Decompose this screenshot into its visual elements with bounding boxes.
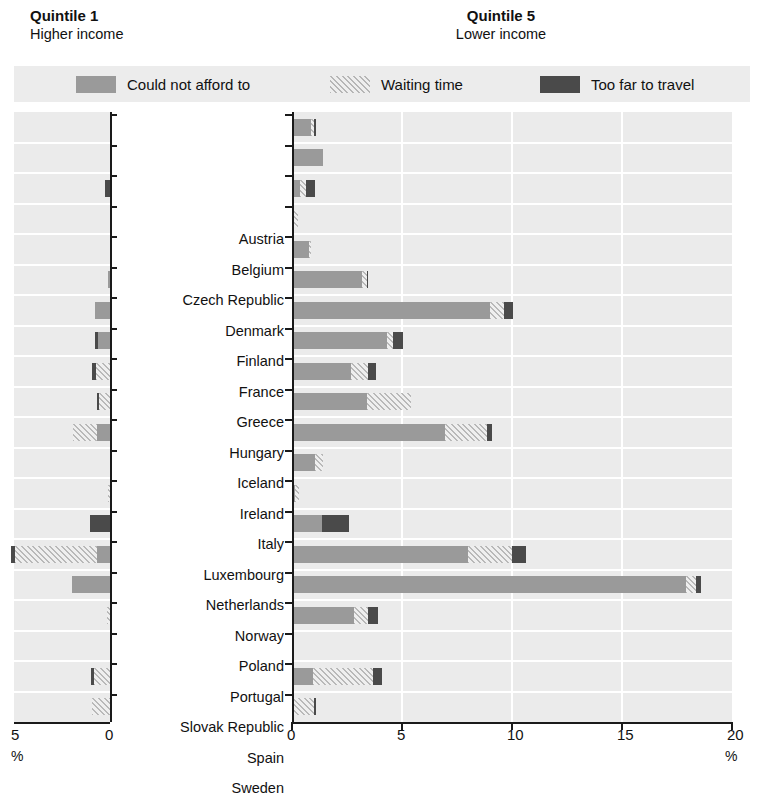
bar-segment-travel-norway (322, 515, 350, 532)
bar-segment-wait-italy (445, 424, 487, 441)
bar-segment-travel-poland (11, 546, 15, 563)
row-separator (14, 599, 110, 601)
panel-headers: Quintile 1 Higher income Quintile 5 Lowe… (0, 0, 760, 62)
row-separator (14, 416, 110, 418)
bar-segment-wait-iceland (96, 363, 110, 380)
bar-segment-afford-ireland (292, 393, 367, 410)
row-separator (14, 569, 110, 571)
bar-segment-afford-italy (97, 424, 110, 441)
header-quintile-5: Quintile 5 Lower income (386, 6, 616, 44)
bar-segment-afford-belgium (292, 149, 323, 166)
bar-segment-wait-czech-republic (300, 180, 307, 197)
country-label-portugal: Portugal (230, 689, 284, 705)
bar-segment-travel-norway (90, 515, 110, 532)
bar-segment-afford-iceland (292, 363, 351, 380)
row-separator (14, 538, 110, 540)
bar-segment-wait-greece (490, 302, 504, 319)
x-tick-label-right-0: 0 (287, 726, 295, 743)
legend-swatch-too-far-to-travel (540, 76, 580, 93)
row-separator (14, 325, 110, 327)
row-separator (14, 508, 110, 510)
bar-segment-afford-hungary (292, 332, 387, 349)
row-separator (14, 233, 110, 235)
country-label-ireland: Ireland (240, 506, 284, 522)
bar-segment-afford-france (292, 271, 362, 288)
row-separator (14, 386, 110, 388)
row-separator (14, 142, 110, 144)
x-tick-label-right-5: 5 (397, 726, 405, 743)
country-label-slovak-republic: Slovak Republic (180, 719, 284, 735)
header-quintile-1: Quintile 1 Higher income (30, 6, 124, 44)
bar-segment-travel-france (367, 271, 369, 288)
x-axis-unit-left: % (11, 748, 23, 765)
bar-segment-travel-greece (504, 302, 513, 319)
bar-segment-wait-poland (468, 546, 512, 563)
bar-segment-wait-luxembourg (315, 454, 323, 471)
x-axis-right (292, 722, 732, 724)
bar-segment-wait-slovak-republic (354, 607, 368, 624)
legend-label-could-not-afford: Could not afford to (127, 76, 250, 93)
country-label-iceland: Iceland (237, 475, 284, 491)
bar-segment-afford-hungary (98, 332, 110, 349)
bar-segment-wait-iceland (351, 363, 368, 380)
quintile-1-subtitle: Higher income (30, 25, 124, 44)
row-separator (14, 264, 110, 266)
country-label-finland: Finland (236, 353, 284, 369)
bar-segment-travel-hungary (95, 332, 99, 349)
gridline-10 (511, 112, 513, 722)
bar-segment-travel-austria (314, 119, 316, 136)
country-label-sweden: Sweden (232, 780, 284, 796)
country-label-luxembourg: Luxembourg (203, 567, 284, 583)
country-labels: AustriaBelgiumCzech RepublicDenmarkFinla… (110, 112, 292, 722)
country-label-france: France (239, 384, 284, 400)
zero-axis-right (292, 112, 294, 722)
row-separator (14, 294, 110, 296)
bar-segment-travel-slovak-republic (368, 607, 378, 624)
legend-label-waiting-time: Waiting time (381, 76, 463, 93)
legend-swatch-could-not-afford (76, 76, 116, 93)
row-separator (14, 691, 110, 693)
bar-segment-afford-portugal (72, 576, 110, 593)
bar-segment-travel-poland (512, 546, 526, 563)
bar-segment-travel-hungary (393, 332, 403, 349)
bar-segment-wait-poland (15, 546, 97, 563)
legend-swatch-waiting-time (330, 76, 370, 93)
legend-item-too-far-to-travel: Too far to travel (540, 75, 694, 93)
quintile-5-subtitle: Lower income (386, 25, 616, 44)
x-tick-label-left-5: 5 (11, 726, 19, 743)
bar-segment-wait-italy (73, 424, 97, 441)
bar-segment-afford-austria (292, 119, 311, 136)
country-label-greece: Greece (236, 414, 284, 430)
row-separator (14, 172, 110, 174)
country-label-hungary: Hungary (229, 445, 284, 461)
row-separator (14, 355, 110, 357)
bar-segment-wait-united-kingdom (292, 698, 314, 715)
bar-segment-travel-sweden (91, 668, 94, 685)
bar-segment-wait-ireland (367, 393, 411, 410)
row-separator (14, 660, 110, 662)
x-tick-label-right-20: 20 (727, 726, 744, 743)
bar-segment-wait-sweden (94, 668, 110, 685)
legend-item-waiting-time: Waiting time (330, 75, 463, 93)
panel-quintile-5 (292, 112, 732, 722)
country-label-norway: Norway (235, 628, 284, 644)
bar-segment-afford-luxembourg (292, 454, 315, 471)
row-separator (14, 477, 110, 479)
bar-segment-afford-italy (292, 424, 445, 441)
bar-segment-travel-czech-republic (306, 180, 315, 197)
country-label-italy: Italy (257, 536, 284, 552)
x-axis-left (14, 722, 110, 724)
bar-segment-afford-greece (95, 302, 110, 319)
country-label-poland: Poland (239, 658, 284, 674)
panel-quintile-1 (14, 112, 110, 722)
quintile-5-title: Quintile 5 (386, 6, 616, 25)
bar-segment-travel-italy (487, 424, 493, 441)
bar-segment-wait-portugal (686, 576, 696, 593)
row-separator (14, 447, 110, 449)
bar-segment-travel-sweden (373, 668, 382, 685)
row-separator (14, 203, 110, 205)
country-label-denmark: Denmark (225, 323, 284, 339)
bar-segment-afford-poland (292, 546, 468, 563)
bar-segment-afford-slovak-republic (292, 607, 354, 624)
bar-segment-afford-poland (97, 546, 110, 563)
